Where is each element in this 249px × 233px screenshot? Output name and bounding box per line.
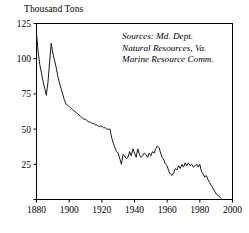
annotation-line-2: Natural Resources, Va.	[121, 43, 206, 53]
y-tick-label-75: 75	[22, 89, 32, 99]
annotation-line-1: Sources: Md. Dept.	[122, 31, 193, 41]
chart-plot-area: 255075100125 188019001920194019601980200…	[0, 0, 249, 233]
sources-annotation: Sources: Md. Dept.Natural Resources, Va.…	[121, 31, 214, 64]
x-tick-label-2000: 2000	[223, 205, 242, 215]
y-tick-label-125: 125	[17, 19, 32, 29]
x-tick-label-1920: 1920	[92, 205, 111, 215]
x-axis-ticks: 1880190019201940196019802000	[27, 200, 242, 216]
y-tick-label-100: 100	[17, 54, 32, 64]
x-tick-label-1900: 1900	[60, 205, 79, 215]
x-tick-label-1880: 1880	[27, 205, 46, 215]
annotation-line-3: Marine Resource Comm.	[121, 54, 214, 64]
y-tick-label-50: 50	[22, 125, 32, 135]
y-tick-label-25: 25	[22, 160, 32, 170]
y-axis-ticks: 255075100125	[17, 19, 37, 200]
x-tick-label-1960: 1960	[158, 205, 177, 215]
x-tick-label-1980: 1980	[190, 205, 209, 215]
x-tick-label-1940: 1940	[125, 205, 144, 215]
chart-figure: Thousand Tons 255075100125 1880190019201…	[0, 0, 249, 233]
